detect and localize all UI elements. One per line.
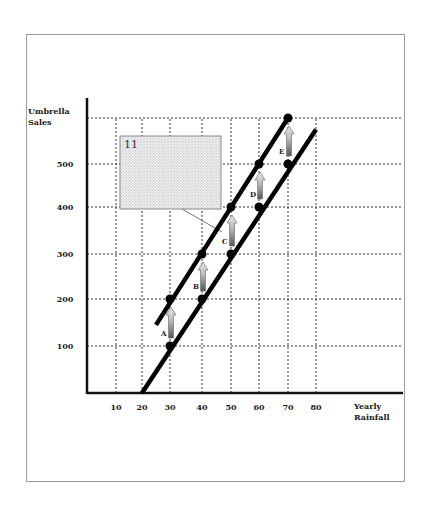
x-tick-label: 80 bbox=[310, 402, 322, 412]
data-point bbox=[255, 203, 264, 212]
chart: 11 ABCDE 1002003004005001020304050607080… bbox=[0, 0, 430, 509]
data-point bbox=[166, 295, 175, 304]
up-arrow-icon bbox=[198, 262, 208, 291]
arrow-label-e: E bbox=[279, 147, 284, 156]
x-tick-label: 10 bbox=[110, 402, 122, 412]
y-tick-label: 100 bbox=[57, 341, 74, 351]
x-axis-title-line1: Yearly bbox=[353, 401, 382, 411]
up-arrow-icon bbox=[166, 307, 176, 338]
x-tick-label: 30 bbox=[164, 402, 176, 412]
y-tick-label: 400 bbox=[57, 202, 74, 212]
x-tick-label: 60 bbox=[253, 402, 265, 412]
up-arrow-icon bbox=[227, 215, 237, 246]
arrow-label-b: B bbox=[193, 282, 199, 291]
up-arrow-icon bbox=[255, 172, 265, 199]
data-point bbox=[198, 295, 207, 304]
arrow-label-d: D bbox=[250, 190, 256, 199]
x-tick-label: 20 bbox=[136, 402, 148, 412]
data-point bbox=[227, 203, 236, 212]
x-axis-title-line2: Rainfall bbox=[354, 412, 390, 422]
x-tick-label: 40 bbox=[196, 402, 208, 412]
arrow-label-a: A bbox=[160, 329, 167, 338]
data-point bbox=[198, 250, 207, 259]
data-point bbox=[284, 114, 293, 123]
data-point bbox=[227, 250, 236, 259]
y-tick-label: 500 bbox=[57, 159, 74, 169]
callout-text: 11 bbox=[124, 138, 138, 151]
data-point bbox=[255, 160, 264, 169]
callout-box: 11 bbox=[120, 136, 222, 232]
x-tick-label: 50 bbox=[225, 402, 237, 412]
y-axis-title-line2: Sales bbox=[28, 117, 52, 127]
y-tick-label: 200 bbox=[57, 294, 74, 304]
data-point bbox=[284, 160, 293, 169]
y-axis-title-line1: Umbrella bbox=[28, 106, 70, 116]
x-tick-label: 70 bbox=[282, 402, 294, 412]
data-point bbox=[166, 342, 175, 351]
arrow-label-c: C bbox=[222, 237, 228, 246]
up-arrow-icon bbox=[284, 126, 294, 156]
y-tick-label: 300 bbox=[57, 249, 74, 259]
